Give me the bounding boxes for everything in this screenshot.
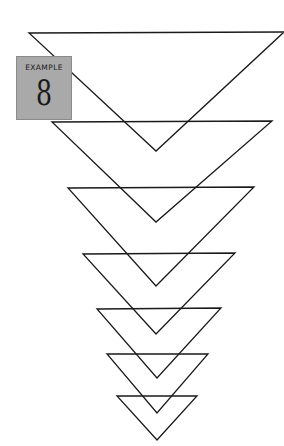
triangle-3 (68, 187, 254, 286)
example-caption: EXAMPLE (17, 63, 71, 72)
triangle-7 (117, 396, 197, 440)
triangle-6 (107, 354, 208, 413)
triangle-4 (83, 253, 235, 334)
triangle-5 (97, 308, 221, 378)
example-number: 8 (25, 74, 63, 112)
example-label-box: EXAMPLE 8 (16, 56, 72, 120)
